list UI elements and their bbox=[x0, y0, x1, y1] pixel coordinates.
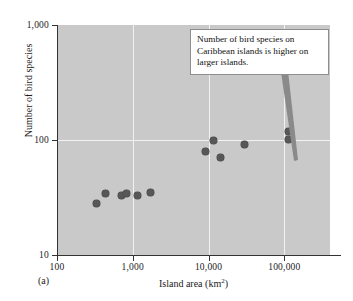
data-point bbox=[202, 148, 209, 155]
data-point bbox=[147, 189, 154, 196]
data-point bbox=[102, 190, 109, 197]
y-axis-tick-label: 100 bbox=[34, 135, 49, 145]
data-point bbox=[217, 154, 224, 161]
y-axis-title: Number of bird species bbox=[23, 11, 34, 171]
data-point bbox=[93, 200, 100, 207]
y-axis-tick-label: 10 bbox=[39, 250, 49, 260]
x-axis-title-suffix: ) bbox=[225, 278, 228, 289]
y-axis-tick bbox=[52, 140, 58, 141]
data-point bbox=[134, 192, 141, 199]
y-axis-tick bbox=[52, 255, 58, 256]
callout-annotation: Number of bird species on Caribbean isla… bbox=[190, 29, 329, 75]
callout-text: Number of bird species on Caribbean isla… bbox=[197, 34, 308, 67]
x-axis-tick bbox=[133, 256, 134, 261]
data-point bbox=[123, 190, 130, 197]
panel-label: (a) bbox=[38, 275, 49, 286]
x-axis-tick-label: 1,000 bbox=[122, 262, 144, 272]
figure-scatter-island-bird-species: 1001,00010,000100,000101001,000 Number o… bbox=[0, 0, 353, 301]
x-axis-tick-label: 100,000 bbox=[268, 262, 300, 272]
x-axis-title: Island area (km2) bbox=[57, 277, 330, 289]
data-point bbox=[241, 141, 248, 148]
x-axis-tick bbox=[209, 256, 210, 261]
x-axis-line bbox=[57, 255, 341, 256]
x-axis-tick-label: 100 bbox=[50, 262, 65, 272]
x-axis-tick bbox=[284, 256, 285, 261]
x-axis-title-main: Island area (km bbox=[159, 278, 221, 289]
data-point bbox=[285, 136, 292, 143]
y-axis-tick bbox=[52, 25, 58, 26]
x-axis-tick bbox=[57, 256, 58, 261]
x-axis-tick-label: 10,000 bbox=[195, 262, 222, 272]
data-point bbox=[285, 128, 292, 135]
data-point bbox=[210, 137, 217, 144]
